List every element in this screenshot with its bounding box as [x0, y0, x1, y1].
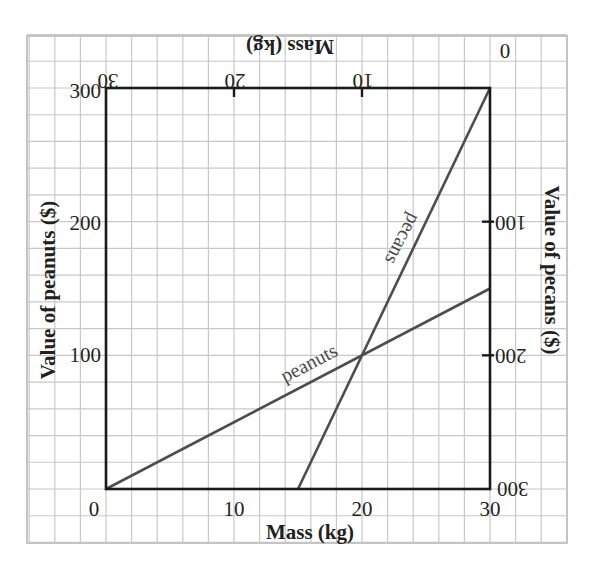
plot-frame: [106, 88, 490, 489]
left-axis-title: Value of peanuts ($): [36, 201, 60, 379]
dual-axis-line-chart: 0 10 20 30 Mass (kg) 100 200 300 Value o…: [0, 0, 589, 565]
peanuts-line: [106, 289, 490, 490]
left-tick-200: 200: [70, 211, 102, 235]
right-tick-300: 300: [497, 477, 529, 501]
left-tick-100: 100: [70, 343, 102, 367]
top-axis-title: Mass (kg): [246, 35, 334, 59]
bottom-tick-20: 20: [352, 497, 373, 521]
grid: [27, 35, 567, 543]
bottom-axis-title: Mass (kg): [266, 520, 354, 544]
pecans-line: [298, 88, 490, 489]
peanuts-series-label: peanuts: [277, 339, 342, 388]
top-tick-10: 10: [353, 69, 374, 93]
top-tick-30: 30: [98, 69, 119, 93]
bottom-tick-10: 10: [224, 497, 245, 521]
right-tick-100: 100: [495, 211, 527, 235]
bottom-tick-0: 0: [89, 497, 100, 521]
top-tick-20: 20: [225, 69, 246, 93]
right-axis-title: Value of pecans ($): [540, 186, 564, 355]
left-tick-300: 300: [70, 79, 102, 103]
right-tick-200: 200: [495, 344, 527, 368]
top-tick-0: 0: [500, 39, 511, 63]
series-lines: [106, 88, 490, 489]
